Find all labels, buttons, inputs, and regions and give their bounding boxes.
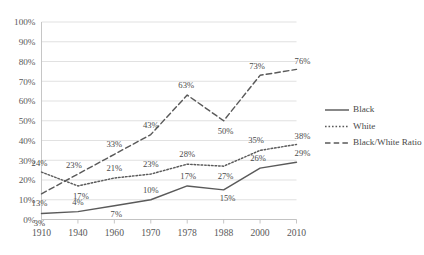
x-axis-tick-label: 1960 <box>105 227 124 238</box>
series-line-2 <box>42 69 297 193</box>
data-point-label: 35% <box>248 135 264 145</box>
data-point-label: 23% <box>66 160 82 170</box>
data-point-label: 43% <box>143 120 159 130</box>
data-point-label: 28% <box>179 149 195 159</box>
data-point-label: 73% <box>249 61 265 71</box>
y-axis-tick-label: 100% <box>14 17 36 27</box>
data-point-label: 21% <box>106 163 122 173</box>
data-point-label: 50% <box>218 126 234 136</box>
data-point-label: 17% <box>73 191 89 201</box>
y-axis-tick-label: 90% <box>19 37 36 47</box>
data-point-label: 63% <box>178 80 194 90</box>
data-point-label: 23% <box>143 159 159 169</box>
data-point-label: 7% <box>111 209 122 219</box>
line-chart: 0%10%20%30%40%50%60%70%80%90%100% 3%4%7%… <box>0 0 424 255</box>
x-axis-tick-label: 2010 <box>287 227 306 238</box>
y-axis-tick-label: 40% <box>19 136 36 146</box>
data-point-label: 29% <box>295 148 311 158</box>
data-point-label: 38% <box>295 131 311 141</box>
chart-legend: BlackWhiteBlack/White Ratio <box>325 104 422 147</box>
x-axis-tick-labels: 19101940196019701978198820002010 <box>32 227 306 238</box>
y-axis-tick-labels: 0%10%20%30%40%50%60%70%80%90%100% <box>14 17 36 225</box>
chart-canvas: 0%10%20%30%40%50%60%70%80%90%100% 3%4%7%… <box>0 0 424 255</box>
data-point-label: 13% <box>32 198 48 208</box>
y-axis-tick-label: 60% <box>19 96 36 106</box>
data-point-labels: 3%4%7%10%17%15%26%29%24%17%21%23%28%27%3… <box>32 56 311 227</box>
y-axis-tick-label: 80% <box>19 57 36 67</box>
legend-label-1: White <box>353 121 375 131</box>
x-axis-tick-label: 1978 <box>178 227 197 238</box>
data-point-label: 27% <box>218 171 234 181</box>
x-axis-tickmarks <box>42 220 297 224</box>
y-axis-tick-label: 20% <box>19 175 36 185</box>
legend-label-2: Black/White Ratio <box>353 137 422 147</box>
data-point-label: 76% <box>295 56 311 66</box>
x-axis-tick-label: 1970 <box>141 227 160 238</box>
x-axis-tick-label: 1940 <box>68 227 87 238</box>
data-point-label: 24% <box>32 158 48 168</box>
x-axis-tick-label: 1910 <box>32 227 51 238</box>
x-axis-tick-label: 2000 <box>250 227 269 238</box>
x-axis-tick-label: 1988 <box>214 227 233 238</box>
data-point-label: 15% <box>220 193 236 203</box>
data-point-label: 26% <box>250 153 266 163</box>
data-point-label: 17% <box>180 171 196 181</box>
y-axis-tick-label: 50% <box>19 116 36 126</box>
y-axis-tick-label: 70% <box>19 77 36 87</box>
data-point-label: 10% <box>143 185 159 195</box>
data-point-label: 33% <box>106 139 122 149</box>
legend-label-0: Black <box>353 104 375 114</box>
gridlines <box>42 22 297 220</box>
